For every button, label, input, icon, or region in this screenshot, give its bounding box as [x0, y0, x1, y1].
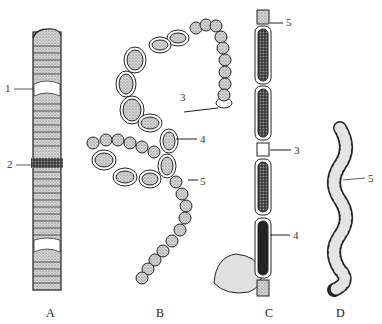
panel-caption-b: B: [156, 307, 164, 319]
filament-a: [14, 29, 63, 290]
callout-c-5: 5: [286, 17, 292, 28]
filament-d: [334, 128, 365, 290]
filament-b: [87, 19, 262, 293]
callout-a-1: 1: [5, 83, 11, 94]
callout-b-5: 5: [200, 176, 206, 187]
callout-b-3: 3: [180, 92, 186, 103]
algae-illustration: [0, 0, 382, 324]
callout-a-2: 2: [7, 159, 13, 170]
callout-d-5: 5: [368, 173, 374, 184]
callout-c-3: 3: [294, 145, 300, 156]
panel-caption-d: D: [336, 307, 345, 319]
panel-caption-c: C: [265, 307, 273, 319]
callout-c-4: 4: [293, 230, 299, 241]
callout-b-4: 4: [200, 134, 206, 145]
panel-caption-a: A: [46, 307, 55, 319]
filament-c: [255, 10, 291, 296]
